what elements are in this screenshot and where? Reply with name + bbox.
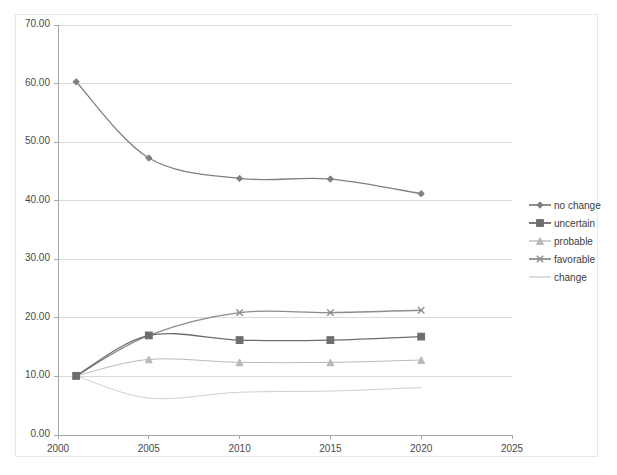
legend-marker-svg bbox=[528, 234, 552, 248]
marker-square bbox=[236, 337, 243, 344]
legend-marker-svg bbox=[528, 252, 552, 266]
x-tick-label: 2000 bbox=[33, 443, 83, 454]
x-tick-label: 2020 bbox=[396, 443, 446, 454]
series-line bbox=[76, 376, 421, 399]
x-tick-label: 2015 bbox=[305, 443, 355, 454]
series-change bbox=[76, 376, 421, 399]
chart-frame: 70.0060.0050.0040.0030.0020.0010.000.00 … bbox=[15, 14, 598, 457]
legend-item-probable[interactable]: probable bbox=[528, 232, 610, 250]
marker-square bbox=[418, 333, 425, 340]
marker-diamond bbox=[236, 175, 242, 181]
marker-square bbox=[537, 220, 544, 227]
marker-diamond bbox=[146, 155, 152, 161]
marker-diamond bbox=[537, 202, 543, 208]
legend-item-no-change[interactable]: no change bbox=[528, 196, 610, 214]
legend-item-uncertain[interactable]: uncertain bbox=[528, 214, 610, 232]
series-line bbox=[76, 359, 421, 376]
y-tick-label: 0.00 bbox=[16, 428, 50, 439]
legend-marker-cross-icon bbox=[528, 252, 552, 266]
y-tick-label: 20.00 bbox=[16, 311, 50, 322]
marker-square bbox=[327, 337, 334, 344]
marker-square bbox=[145, 332, 152, 339]
series-probable bbox=[73, 356, 425, 379]
y-tick-label: 60.00 bbox=[16, 77, 50, 88]
legend-marker-diamond-icon bbox=[528, 198, 552, 212]
y-tick-label: 30.00 bbox=[16, 252, 50, 263]
series-line bbox=[76, 334, 421, 376]
y-tick-label: 70.00 bbox=[16, 18, 50, 29]
legend-marker-triangle-icon bbox=[528, 234, 552, 248]
legend-marker-svg bbox=[528, 270, 552, 284]
y-tick-label: 50.00 bbox=[16, 135, 50, 146]
legend-item-change[interactable]: change bbox=[528, 268, 610, 286]
y-tick-label: 40.00 bbox=[16, 194, 50, 205]
series-uncertain bbox=[73, 332, 425, 379]
legend-label: favorable bbox=[552, 254, 595, 265]
y-tick-label: 10.00 bbox=[16, 369, 50, 380]
x-tick-label: 2010 bbox=[215, 443, 265, 454]
line-chart-plot bbox=[16, 15, 599, 458]
legend-marker-svg bbox=[528, 216, 552, 230]
legend-label: change bbox=[552, 272, 587, 283]
legend-marker-square-icon bbox=[528, 216, 552, 230]
marker-square bbox=[73, 372, 80, 379]
legend-label: no change bbox=[552, 200, 601, 211]
marker-diamond bbox=[327, 176, 333, 182]
x-tick-label: 2005 bbox=[124, 443, 174, 454]
series-no-change bbox=[73, 79, 424, 197]
legend-label: uncertain bbox=[552, 218, 595, 229]
chart-legend: no changeuncertainprobablefavorablechang… bbox=[528, 196, 610, 286]
legend-marker-svg bbox=[528, 198, 552, 212]
legend-label: probable bbox=[552, 236, 593, 247]
marker-diamond bbox=[418, 190, 424, 196]
gridlines bbox=[58, 25, 512, 435]
x-tick-label: 2025 bbox=[487, 443, 537, 454]
legend-item-favorable[interactable]: favorable bbox=[528, 250, 610, 268]
legend-marker-line-icon bbox=[528, 270, 552, 284]
series-line bbox=[76, 82, 421, 194]
